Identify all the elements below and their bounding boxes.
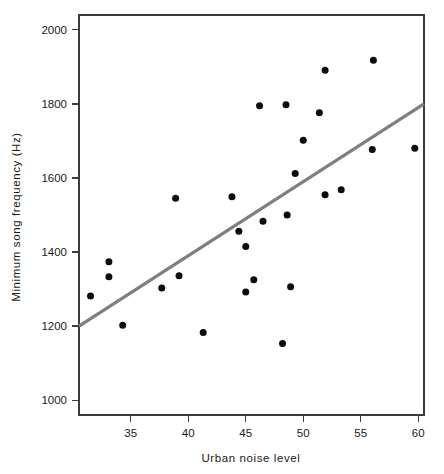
y-tick-label: 1000 [41,394,67,406]
data-point [228,193,235,200]
regression-trend-line [79,104,424,326]
data-point [119,322,126,329]
data-point [322,191,329,198]
data-point [279,340,286,347]
x-axis-ticks: 354045505560 [124,415,424,439]
data-point [105,273,112,280]
data-point [256,102,263,109]
data-point [250,276,257,283]
data-point [322,67,329,74]
x-tick-label: 60 [412,427,425,439]
y-axis-title: Minimum song frequency (Hz) [10,132,22,302]
data-point [292,170,299,177]
data-point [411,145,418,152]
data-point [242,243,249,250]
x-tick-label: 35 [124,427,137,439]
data-points [87,57,418,347]
data-point [283,101,290,108]
data-point [284,212,291,219]
x-axis-title: Urban noise level [201,452,300,464]
data-point [87,293,94,300]
y-tick-label: 1600 [41,172,67,184]
data-point [338,186,345,193]
y-tick-label: 1800 [41,98,67,110]
data-point [158,284,165,291]
data-point [105,258,112,265]
y-tick-label: 2000 [41,24,67,36]
y-tick-label: 1200 [41,320,67,332]
y-tick-label: 1400 [41,246,67,258]
data-point [242,289,249,296]
data-point [235,228,242,235]
x-tick-label: 50 [297,427,310,439]
data-point [300,137,307,144]
data-point [370,57,377,64]
data-point [172,195,179,202]
chart-canvas: 100012001400160018002000 354045505560 Ur… [0,0,444,474]
scatter-plot-figure: 100012001400160018002000 354045505560 Ur… [0,0,444,474]
x-tick-label: 55 [354,427,367,439]
data-point [176,272,183,279]
data-point [369,146,376,153]
data-point [316,109,323,116]
trend-line [79,104,424,326]
x-tick-label: 40 [182,427,195,439]
data-point [287,283,294,290]
x-tick-label: 45 [239,427,252,439]
y-axis-ticks: 100012001400160018002000 [41,24,79,406]
data-point [260,218,267,225]
data-point [200,329,207,336]
